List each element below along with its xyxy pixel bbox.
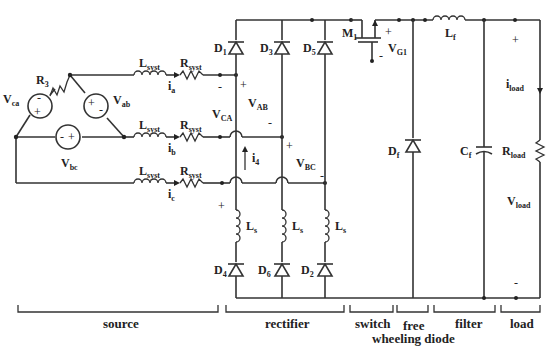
vab-plus: +: [88, 96, 95, 110]
circuit-diagram: - + Vca R3 + - Vab - + Vbc Lsyst Rsyst i…: [0, 0, 553, 351]
section-brackets: source rectifier switch free wheeling di…: [18, 305, 540, 346]
label-rload: Rload: [502, 144, 526, 160]
vg1-plus: +: [385, 25, 392, 39]
label-m1: M1: [342, 26, 357, 42]
vbc-minus-sign: -: [320, 169, 324, 183]
diode-d4: [228, 262, 244, 276]
section-source: source: [103, 316, 139, 331]
label-d2: D2: [301, 263, 314, 279]
section-switch: switch: [355, 316, 391, 331]
inductor-ls-1: [230, 210, 244, 242]
label-vload: Vload: [507, 194, 531, 210]
label-ls-2: Ls: [292, 219, 303, 235]
mosfet-switch-m1: M1 VG1 + -: [342, 18, 433, 63]
label-d4: D4: [214, 263, 227, 279]
label-df: Df: [388, 144, 400, 160]
section-filter: filter: [455, 316, 483, 331]
label-ls-3: Ls: [335, 219, 346, 235]
label-lf: Lf: [445, 26, 456, 42]
label-vca: VCA: [212, 107, 232, 123]
diode-d2: [317, 262, 333, 276]
inductor-lf: [433, 16, 465, 20]
inductor-ls-2: [276, 210, 290, 242]
label-rsyst-c: Rsyst: [180, 164, 202, 180]
label-vbc: Vbc: [61, 156, 78, 172]
label-rsyst-b: Rsyst: [180, 118, 202, 134]
label-lsyst-b: Lsyst: [139, 118, 160, 134]
vca-minus-sign: -: [218, 80, 222, 94]
label-d3: D3: [260, 41, 273, 57]
diode-d5: [317, 40, 333, 54]
line-impedances: Lsyst Rsyst ia Lsyst Rsyst ib Lsyst Rsys…: [134, 56, 327, 203]
label-cf: Cf: [460, 144, 472, 160]
arrow-ib: [174, 134, 180, 140]
section-rectifier: rectifier: [265, 316, 310, 331]
resistor-rload: [536, 140, 544, 162]
vca-plus-sign: +: [218, 199, 225, 213]
arrow-iload: [537, 88, 543, 94]
label-vab-rect: VAB: [248, 96, 268, 112]
resistor-rsyst-c: [180, 179, 203, 187]
label-lsyst-c: Lsyst: [139, 164, 160, 180]
inductor-ls-3: [319, 210, 333, 242]
label-vca: Vca: [3, 92, 19, 108]
section-load: load: [510, 316, 535, 331]
vab-minus: -: [99, 103, 103, 117]
label-rsyst-a: Rsyst: [180, 56, 202, 72]
label-r3: R3: [36, 73, 49, 89]
load: iload Rload Vload + -: [502, 20, 544, 300]
label-i4: i4: [252, 151, 259, 167]
freewheeling-diode-df: Df: [388, 20, 421, 298]
diode-d3: [274, 40, 290, 54]
vca-plus: +: [34, 105, 41, 119]
vbc-plus: +: [68, 130, 75, 144]
diode-d1: [228, 40, 244, 54]
vload-minus: -: [514, 276, 518, 290]
label-ls-1: Ls: [246, 219, 257, 235]
label-lsyst-a: Lsyst: [139, 56, 160, 72]
label-vbc-rect: VBC: [296, 156, 316, 172]
resistor-rsyst-b: [180, 133, 203, 141]
label-iload: iload: [506, 77, 525, 93]
label-d5: D5: [303, 41, 316, 57]
label-ib: ib: [168, 141, 176, 157]
arrow-ic: [174, 180, 180, 186]
diode-d6: [274, 262, 290, 276]
vab-minus-sign: -: [268, 116, 272, 130]
label-vab: Vab: [113, 93, 131, 109]
section-wheeling-diode: wheeling diode: [372, 331, 455, 346]
vca-minus: -: [37, 91, 41, 105]
resistor-rsyst-a: [180, 71, 203, 79]
arrow-ia: [174, 72, 180, 78]
vg1-minus: -: [379, 49, 383, 63]
resistor-r3: [50, 75, 70, 96]
three-phase-source: - + Vca R3 + - Vab - + Vbc: [3, 73, 134, 183]
vload-plus: +: [512, 33, 519, 47]
label-ic: ic: [168, 187, 175, 203]
label-d6: D6: [258, 263, 271, 279]
vab-plus-sign: +: [240, 78, 247, 92]
label-ia: ia: [168, 79, 175, 95]
label-vg1: VG1: [388, 41, 407, 57]
label-d1: D1: [214, 41, 227, 57]
rectifier: D1 D3 D5 Ls Ls Ls: [212, 18, 540, 298]
vbc-plus-sign: +: [286, 139, 293, 153]
vbc-minus: -: [60, 130, 64, 144]
